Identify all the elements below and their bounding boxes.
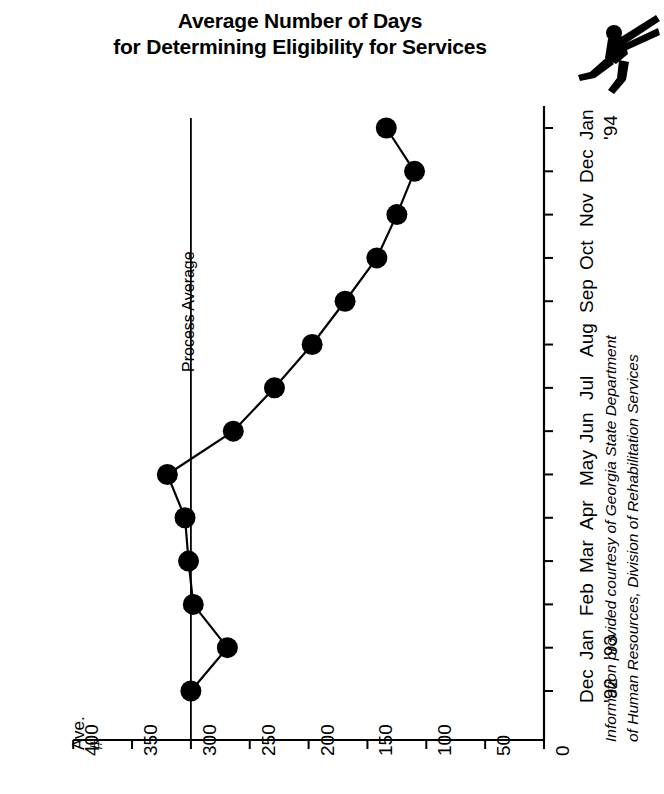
value-axis-tick-label: 50 [493, 735, 515, 756]
category-axis-tick-label: Sep [576, 279, 598, 313]
category-axis-tick-label: Jul [576, 376, 598, 400]
process-average-label: Process Average [180, 251, 198, 372]
category-axis-year-label: '94 [600, 115, 622, 140]
category-axis-tick-label: Apr [576, 500, 598, 530]
category-axis-tick-label: Nov [576, 193, 598, 227]
value-axis-tick-label: 100 [434, 724, 456, 756]
credit-line-2: of Human Resources, Division of Rehabili… [622, 335, 644, 742]
value-axis-tick-label: 0 [552, 745, 574, 756]
value-axis-tick-label: 250 [258, 724, 280, 756]
category-axis-tick-label: Mar [576, 540, 598, 573]
category-axis-tick-label: Feb [576, 584, 598, 617]
category-axis-year-label: '93 [600, 635, 622, 660]
value-axis-tick-label: 200 [317, 724, 339, 756]
value-axis-tick-label: 400 [81, 724, 103, 756]
category-axis-tick-label: May [576, 451, 598, 487]
category-axis-tick-label: Aug [576, 323, 598, 357]
chart-page: Average Number of Days for Determining E… [0, 0, 664, 794]
category-axis-tick-label: Oct [576, 240, 598, 270]
value-axis-tick-label: 300 [199, 724, 221, 756]
category-axis-tick-label: Jan [576, 109, 598, 140]
value-axis-tick-label: 350 [140, 724, 162, 756]
value-axis-tick-label: 150 [375, 724, 397, 756]
category-axis-tick-label: Dec [576, 150, 598, 184]
category-axis-tick-label: Jun [576, 413, 598, 444]
category-axis-tick-label: Dec [576, 669, 598, 703]
plot-area: Process Average Ave. # Information provi… [0, 0, 664, 794]
category-axis-year-label: '92 [600, 678, 622, 703]
category-axis-tick-label: Jan [576, 629, 598, 660]
